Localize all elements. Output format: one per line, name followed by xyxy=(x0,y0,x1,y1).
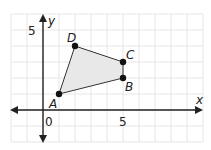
x-tick-label-5: 5 xyxy=(119,115,127,129)
vertex-label-a: A xyxy=(48,97,57,111)
y-axis-label: y xyxy=(47,14,56,28)
coordinate-plane: x y 0 5 5 ABCD xyxy=(0,0,211,150)
x-axis-label: x xyxy=(195,93,204,107)
vertex-label-c: C xyxy=(126,48,135,62)
vertex-label-d: D xyxy=(67,31,76,45)
y-axis-arrow-up-icon xyxy=(39,14,47,22)
x-axis-arrow-right-icon xyxy=(195,106,203,114)
vertex-label-b: B xyxy=(125,80,133,94)
origin-label: 0 xyxy=(45,115,53,129)
y-tick-label-5: 5 xyxy=(28,24,36,38)
